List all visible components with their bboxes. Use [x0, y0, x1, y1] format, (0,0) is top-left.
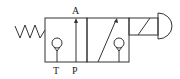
port-label-t: T: [53, 65, 59, 76]
pushbutton-icon: [158, 13, 172, 39]
blocked-port-t-symbol: [52, 38, 62, 62]
blocked-port-symbol: [114, 38, 124, 62]
port-label-a: A: [72, 5, 80, 16]
spring-icon: [15, 25, 45, 38]
flow-arrow-p-to-a: [74, 18, 78, 62]
port-label-p: P: [72, 65, 78, 76]
valve-diagram: A T P: [0, 0, 180, 79]
valve-envelope-left: [45, 18, 87, 62]
solenoid-icon: [129, 18, 158, 35]
